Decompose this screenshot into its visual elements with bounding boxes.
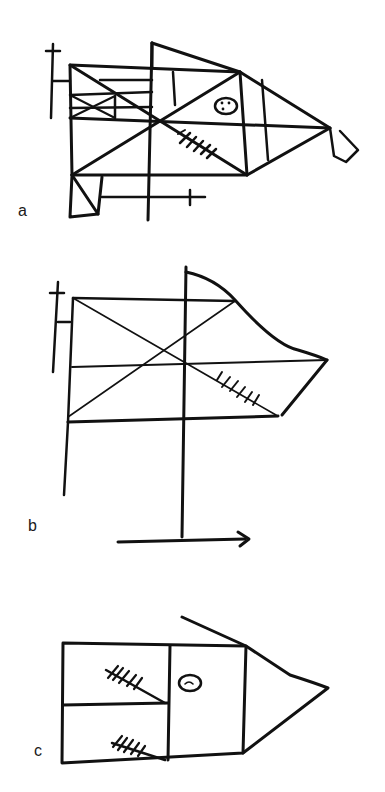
drawing-c: c (0, 580, 385, 780)
drawing-c-svg (0, 580, 385, 780)
panel-label-b: b (28, 517, 37, 535)
panel-label-c: c (34, 742, 42, 760)
drawing-a-svg (0, 30, 385, 230)
drawing-a: a (0, 30, 385, 230)
panel-label-a: a (18, 202, 27, 220)
drawing-b: b (0, 250, 385, 560)
drawing-b-svg (0, 250, 385, 560)
